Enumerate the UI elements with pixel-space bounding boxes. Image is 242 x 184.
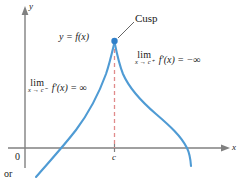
cusp-label: Cusp: [135, 13, 158, 24]
y-axis-arrow: [22, 6, 29, 15]
right-limit-annotation: lim x → c⁺ f′(x) = −∞: [135, 52, 200, 68]
curve-left-branch: [36, 42, 115, 177]
y-axis-label: y: [29, 2, 33, 11]
caption-or: or: [4, 168, 12, 179]
origin-label: 0: [15, 152, 20, 162]
left-limit-operator: lim x → c⁻: [28, 78, 47, 94]
left-limit-subscript: x → c⁻: [28, 87, 47, 94]
cusp-figure: y x 0 c Cusp y = f(x) lim x → c⁻ f′(x) =…: [0, 0, 242, 184]
cusp-point: [111, 38, 117, 44]
x-axis: [8, 145, 230, 152]
right-limit-operator: lim x → c⁺: [135, 50, 154, 66]
function-label: y = f(x): [59, 32, 89, 42]
left-limit-annotation: lim x → c⁻ f′(x) = ∞: [28, 80, 87, 96]
x-tick-label-c: c: [112, 153, 116, 162]
cusp-leader-line: [118, 22, 134, 38]
right-limit-body: f′(x) = −∞: [159, 55, 201, 65]
right-limit-subscript: x → c⁺: [135, 59, 154, 66]
x-axis-label: x: [232, 143, 236, 152]
left-limit-body: f′(x) = ∞: [52, 83, 87, 93]
x-axis-arrow: [221, 145, 230, 152]
